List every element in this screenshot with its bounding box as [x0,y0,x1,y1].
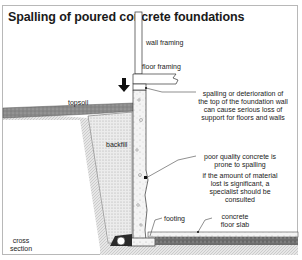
label-backfill: backfill [106,141,127,149]
callout-poor-quality: poor quality concrete is prone to spalli… [190,153,290,169]
footing [128,238,155,246]
label-floor-slab: concretefloor slab [214,213,256,229]
foundation-wall [133,90,148,240]
drain-pipe [117,237,125,245]
sill-plate [133,84,146,90]
floor-framing-joist [133,74,178,84]
label-wall-framing: wall framing [146,39,183,47]
label-footing: footing [164,215,185,223]
gravel-bed [155,237,298,245]
label-topsoil: topsoil [68,99,88,107]
wall-framing-stud [135,12,142,74]
callout-spalling-top: spalling or deterioration of the top of … [190,90,296,122]
floor-slab [148,232,298,237]
label-floor-framing: floor framing [142,63,181,71]
label-cross-section: crosssection [8,237,34,253]
callout-specialist: if the amount of material lost is signif… [190,172,290,204]
load-arrow-icon [118,78,130,92]
